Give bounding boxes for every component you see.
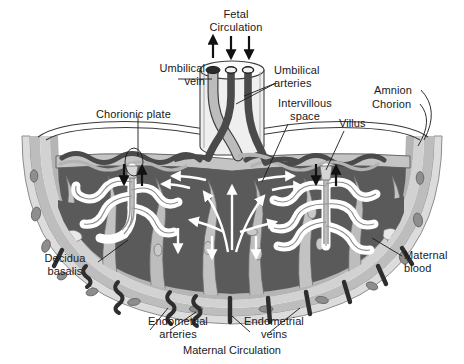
label-intervillous-space: Intervillous space [272,97,338,122]
label-umbilical-vein: Umbilical vein [133,62,205,87]
label-chorion: Chorion [372,98,422,111]
fetal-circulation-arrows [213,36,249,58]
label-amnion: Amnion [374,84,424,97]
label-maternal-blood: Maternal blood [404,249,462,274]
placenta-diagram-artwork [0,0,464,364]
placental-circulation-figure: Fetal Circulation Umbilical vein Umbilic… [0,0,464,364]
label-endometrial-veins: Endometrial veins [236,315,312,340]
label-fetal-circulation: Fetal Circulation [196,8,276,33]
label-villus: Villus [339,117,379,130]
caption-maternal-circulation: Maternal Circulation [0,344,464,356]
label-endometrial-arteries: Endometrial arteries [140,315,216,340]
label-decidua-basalis: Decidua basalis [34,252,96,277]
label-umbilical-arteries: Umbilical arteries [274,64,344,89]
label-chorionic-plate: Chorionic plate [96,108,186,121]
